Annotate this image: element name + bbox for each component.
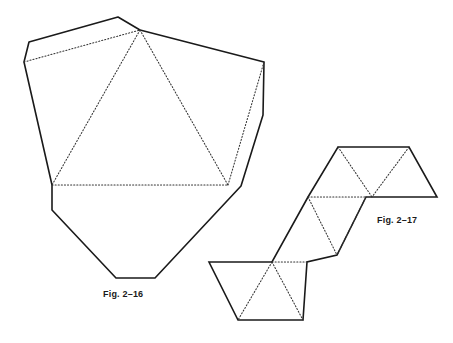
figure-caption-2-17: Fig. 2–17	[377, 215, 417, 225]
figure-canvas	[0, 0, 453, 343]
figure-caption-2-16: Fig. 2–16	[103, 289, 143, 299]
canvas-background	[0, 0, 453, 343]
